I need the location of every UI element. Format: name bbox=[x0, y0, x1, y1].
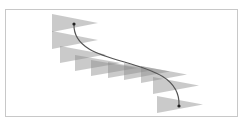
triangle-shape bbox=[157, 96, 203, 113]
end-point-marker bbox=[177, 104, 180, 107]
diagram-canvas bbox=[0, 0, 243, 121]
start-point-marker bbox=[72, 22, 75, 25]
